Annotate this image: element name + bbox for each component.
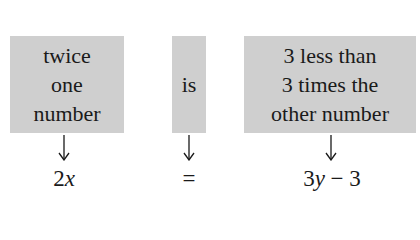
- equals-sign: =: [176, 166, 202, 192]
- down-arrow-icon: [182, 135, 196, 161]
- expression-2x: 2x: [44, 166, 84, 192]
- phrase-line: number: [33, 99, 100, 128]
- down-arrow-icon: [57, 135, 71, 161]
- phrase-box-is: is: [172, 36, 206, 133]
- phrase-line: is: [182, 70, 197, 99]
- down-arrow-icon: [324, 135, 338, 161]
- phrase-line: twice: [43, 41, 91, 70]
- coefficient: 3: [303, 166, 315, 191]
- variable-y: y: [315, 166, 325, 191]
- phrase-line: 3 times the: [282, 70, 379, 99]
- phrase-box-3-less-than: 3 less than 3 times the other number: [244, 36, 416, 133]
- phrase-line: other number: [271, 99, 389, 128]
- coefficient: 2: [53, 166, 65, 191]
- equals-symbol: =: [183, 166, 196, 191]
- phrase-line: 3 less than: [284, 41, 377, 70]
- expression-3y-minus-3: 3y − 3: [282, 166, 382, 192]
- minus-three: − 3: [325, 166, 361, 191]
- phrase-line: one: [51, 70, 83, 99]
- variable-x: x: [65, 166, 75, 191]
- phrase-box-twice-one-number: twice one number: [10, 36, 124, 133]
